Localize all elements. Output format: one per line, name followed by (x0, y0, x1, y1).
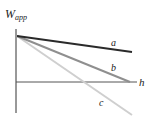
line-b-label: b (111, 62, 116, 73)
line-c-label: c (99, 97, 104, 108)
x-axis-label: h (139, 76, 145, 88)
y-axis-label: Wapp (5, 7, 27, 22)
line-a-label: a (111, 37, 116, 48)
diagram-canvas: Wapp h a b c (0, 0, 152, 123)
